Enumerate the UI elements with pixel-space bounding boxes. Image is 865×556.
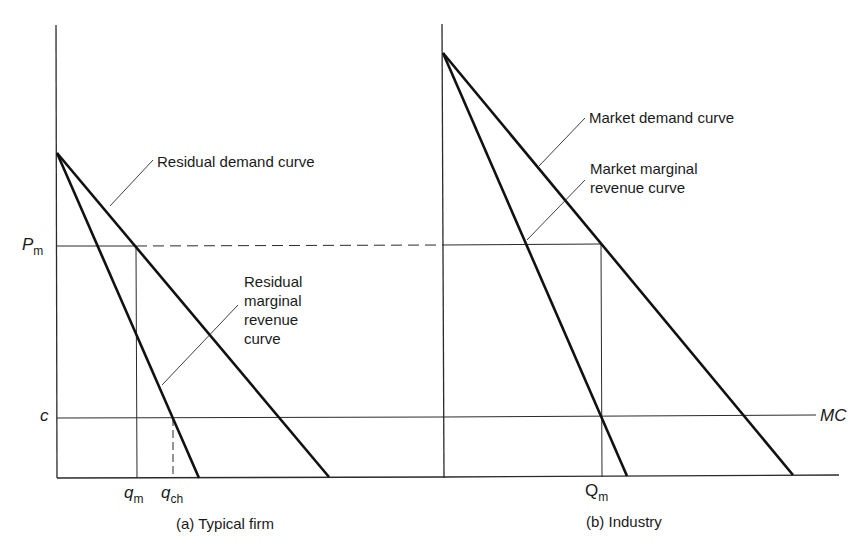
pm-axis-label: Pm	[22, 236, 43, 255]
diagram-canvas	[0, 0, 865, 556]
residual-marginal-revenue-curve	[57, 153, 199, 478]
residual-mr-leader	[162, 305, 238, 385]
panel-a-typical-firm	[56, 25, 444, 478]
market-demand-leader	[539, 118, 585, 166]
panel-a-x-axis	[57, 477, 444, 478]
qm-axis-label: qm	[124, 484, 143, 503]
panel-b-y-axis	[442, 24, 444, 478]
residual-mr-label: Residual marginal revenue curve	[244, 272, 302, 348]
qch-axis-label: qch	[161, 484, 183, 503]
qm-vertical-line	[136, 246, 137, 478]
residual-demand-label: Residual demand curve	[157, 153, 315, 170]
panel-b-x-axis	[444, 475, 839, 477]
panel-b-caption: (b) Industry	[586, 513, 662, 530]
panel-b-pm-line	[442, 244, 601, 245]
qm-industry-axis-label: Qm	[585, 482, 608, 501]
panel-b-industry	[442, 24, 839, 478]
market-demand-label: Market demand curve	[589, 109, 734, 126]
qm-industry-vertical-line	[601, 244, 602, 477]
mc-label: MC	[820, 407, 846, 424]
residual-demand-leader	[110, 160, 153, 206]
mc-line	[442, 415, 816, 417]
pm-dashed-extension	[136, 245, 442, 246]
c-axis-label: c	[40, 407, 49, 424]
panel-a-caption: (a) Typical firm	[176, 515, 274, 532]
panel-a-y-axis	[56, 25, 57, 478]
panel-a-c-line	[57, 417, 442, 418]
market-mr-label: Market marginal revenue curve	[590, 159, 698, 197]
